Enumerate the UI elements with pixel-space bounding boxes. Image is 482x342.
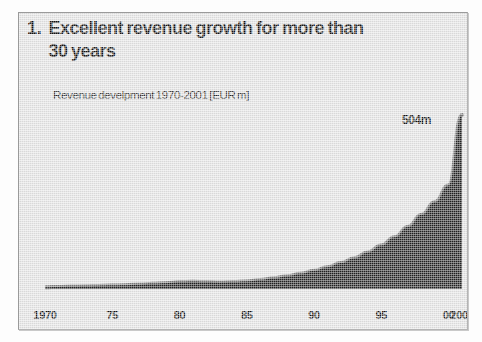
x-tick-90: 90 [308, 309, 320, 321]
chart-subtitle: Revenue develpment 1970-2001 [EUR m] [53, 89, 249, 101]
peak-value-annotation: 504m [402, 113, 431, 127]
scanned-page: 1. Excellent revenue growth for more tha… [0, 0, 482, 342]
x-tick-85: 85 [241, 309, 253, 321]
x-tick-95: 95 [375, 309, 387, 321]
slide-title-block: 1. Excellent revenue growth for more tha… [27, 17, 457, 63]
revenue-area-chart [45, 105, 468, 291]
page-title: Excellent revenue growth for more than 3… [48, 17, 363, 63]
x-tick-1970: 1970 [33, 309, 56, 321]
area-fill-shape [45, 115, 462, 289]
title-line-1-row: 1. Excellent revenue growth for more tha… [27, 17, 457, 63]
area-chart-svg [45, 105, 468, 291]
x-axis-tick-labels: 19707580859095002001 [45, 309, 468, 327]
x-tick-2001: 2001 [450, 309, 468, 321]
presentation-slide: 1. Excellent revenue growth for more tha… [18, 12, 468, 330]
x-tick-75: 75 [106, 309, 118, 321]
title-line-1: Excellent revenue growth for more than [48, 18, 363, 38]
slide-number: 1. [27, 17, 48, 40]
x-tick-80: 80 [174, 309, 186, 321]
title-line-2: 30 years [48, 41, 115, 61]
